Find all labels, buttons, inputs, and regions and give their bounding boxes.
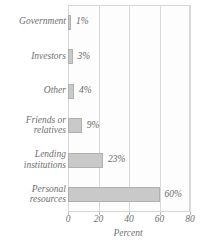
bar-chart: 1%Government3%Investors4%Other9%Friends … <box>0 0 204 244</box>
bar <box>68 84 74 99</box>
category-label-line: Lending <box>0 149 66 160</box>
bar-value-label: 60% <box>165 189 182 199</box>
category-label: Other <box>0 85 66 96</box>
gridline-60 <box>160 5 161 212</box>
tick-label-0: 0 <box>66 214 71 224</box>
category-label-line: Government <box>0 16 66 27</box>
bar-value-label: 9% <box>87 120 100 130</box>
category-label-line: Personal <box>0 184 66 195</box>
category-label: Investors <box>0 51 66 62</box>
gridline-80 <box>190 5 191 212</box>
bar <box>68 15 71 30</box>
x-axis-title-label: Percent <box>61 228 142 238</box>
tick-label-60: 60 <box>155 214 165 224</box>
bar-value-label: 1% <box>76 16 89 26</box>
category-label-line: resources <box>0 194 66 205</box>
tick-label-40: 40 <box>124 214 134 224</box>
bar <box>68 187 160 202</box>
category-label-line: Investors <box>0 51 66 62</box>
category-label-line: Other <box>0 85 66 96</box>
category-label: Government <box>0 16 66 27</box>
category-label: Friends orrelatives <box>0 115 66 136</box>
tick-label-80: 80 <box>185 214 195 224</box>
gridline-20 <box>99 5 100 212</box>
gridline-40 <box>129 5 130 212</box>
bar-value-label: 3% <box>78 51 91 61</box>
category-label-line: Friends or <box>0 115 66 126</box>
category-label: Personalresources <box>0 184 66 205</box>
category-label-line: relatives <box>0 125 66 136</box>
category-label: Lendinginstitutions <box>0 149 66 170</box>
tick-label-20: 20 <box>94 214 104 224</box>
bar-value-label: 4% <box>79 85 92 95</box>
bar <box>68 153 103 168</box>
x-axis-title: Percent <box>0 228 204 238</box>
bar <box>68 118 82 133</box>
category-label-line: institutions <box>0 160 66 171</box>
bar <box>68 49 73 64</box>
bar-value-label: 23% <box>108 154 125 164</box>
